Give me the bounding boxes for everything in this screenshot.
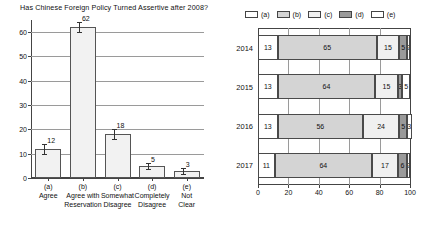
- stacked-row-2015: 201513641535: [258, 67, 410, 106]
- bar-value-label: 62: [82, 15, 90, 22]
- legend-item-d[interactable]: (d): [339, 11, 364, 18]
- legend-item-a[interactable]: (a): [245, 11, 270, 18]
- x-tick-mark: [83, 178, 84, 181]
- stack-segment-b[interactable]: 64: [278, 74, 375, 99]
- y-gridline: [31, 32, 204, 33]
- bar-value-label: 12: [47, 137, 55, 144]
- left-plot-area: 010203040506012(a)Agree62(b)Agree withRe…: [31, 20, 204, 178]
- error-bar-cap: [77, 22, 82, 23]
- legend: (a)(b)(c)(d)(e): [245, 11, 395, 18]
- error-bar-cap: [42, 154, 47, 155]
- bar-value-label: 5: [151, 156, 155, 163]
- legend-item-c[interactable]: (c): [308, 11, 332, 18]
- y-gridline: [31, 129, 204, 130]
- error-bar: [114, 129, 115, 139]
- x-gridline: [410, 28, 411, 185]
- bar-e[interactable]: [174, 171, 200, 178]
- y-tick-mark: [28, 32, 31, 33]
- x-tick-mark: [380, 185, 381, 188]
- legend-swatch-icon: [277, 11, 290, 18]
- right-plot-area: 0204060801002014136515522015136415352016…: [258, 28, 410, 185]
- legend-swatch-icon: [245, 11, 258, 18]
- y-tick-label: 50: [19, 53, 27, 60]
- legend-item-b[interactable]: (b): [277, 11, 302, 18]
- y-tick-label: 40: [19, 77, 27, 84]
- stack-segment-a[interactable]: 11: [258, 153, 275, 178]
- legend-label: (a): [261, 11, 270, 18]
- error-bar-cap: [112, 129, 117, 130]
- y-category-label: 2016: [236, 122, 253, 131]
- stack-segment-a[interactable]: 13: [258, 114, 278, 139]
- legend-item-e[interactable]: (e): [371, 11, 396, 18]
- error-bar-cap: [112, 139, 117, 140]
- y-tick-mark: [28, 178, 31, 179]
- x-tick-label: 100: [404, 189, 416, 196]
- stack-segment-c[interactable]: 15: [375, 74, 398, 99]
- stack-segment-d[interactable]: 5: [399, 114, 407, 139]
- stack-segment-a[interactable]: 13: [258, 74, 278, 99]
- stack-segment-d[interactable]: 5: [399, 35, 407, 60]
- error-bar-cap: [181, 168, 186, 169]
- bar-d[interactable]: [139, 166, 165, 178]
- stacked-row-2016: 201613562453: [258, 107, 410, 146]
- left-bar-chart-panel: Has Chinese Foreign Policy Turned Assert…: [0, 0, 215, 226]
- error-bar: [44, 144, 45, 154]
- y-gridline: [31, 56, 204, 57]
- y-tick-label: 10: [19, 150, 27, 157]
- x-tick-mark: [258, 185, 259, 188]
- bar-c[interactable]: [105, 134, 131, 178]
- stack-segment-d[interactable]: 6: [398, 153, 407, 178]
- legend-label: (d): [355, 11, 364, 18]
- right-stacked-chart-panel: (a)(b)(c)(d)(e) 020406080100201413651552…: [215, 0, 430, 226]
- stacked-row-2017: 201711641762: [258, 146, 410, 185]
- y-tick-mark: [28, 56, 31, 57]
- stack-segment-c[interactable]: 17: [372, 153, 398, 178]
- x-tick-mark: [187, 178, 188, 181]
- stack-segment-c[interactable]: 24: [363, 114, 399, 139]
- error-bar-cap: [42, 144, 47, 145]
- x-tick-mark: [288, 185, 289, 188]
- x-tick-label: 20: [284, 189, 292, 196]
- page-title: Has Chinese Foreign Policy Turned Assert…: [20, 3, 208, 12]
- stack-segment-b[interactable]: 56: [278, 114, 363, 139]
- stack-segment-c[interactable]: 15: [377, 35, 400, 60]
- y-tick-mark: [28, 81, 31, 82]
- x-tick-label: 80: [376, 189, 384, 196]
- legend-label: (b): [293, 11, 302, 18]
- bar-a[interactable]: [35, 149, 61, 178]
- stack-segment-b[interactable]: 65: [278, 35, 377, 60]
- y-tick-label: 0: [23, 175, 27, 182]
- stack-segment-e[interactable]: 5: [402, 74, 410, 99]
- x-tick-mark: [349, 185, 350, 188]
- stack-segment-e[interactable]: 3: [407, 114, 412, 139]
- bar-b[interactable]: [70, 27, 96, 178]
- stack-segment-e[interactable]: 2: [407, 153, 410, 178]
- stacked-bar: 13562453: [258, 114, 410, 139]
- stack-segment-e[interactable]: 2: [407, 35, 410, 60]
- x-category-line: (e): [166, 182, 207, 191]
- y-tick-mark: [28, 129, 31, 130]
- y-tick-label: 60: [19, 29, 27, 36]
- stack-segment-b[interactable]: 64: [275, 153, 372, 178]
- x-tick-label: 60: [345, 189, 353, 196]
- legend-swatch-icon: [339, 11, 352, 18]
- figure-root: Has Chinese Foreign Policy Turned Assert…: [0, 0, 430, 226]
- x-tick-mark: [48, 178, 49, 181]
- y-category-label: 2015: [236, 82, 253, 91]
- bar-value-label: 18: [117, 122, 125, 129]
- y-tick-mark: [28, 105, 31, 106]
- stack-segment-a[interactable]: 13: [258, 35, 278, 60]
- stacked-bar: 13641535: [258, 74, 410, 99]
- x-tick-mark: [118, 178, 119, 181]
- bar-value-label: 3: [186, 161, 190, 168]
- x-tick-label: 40: [315, 189, 323, 196]
- x-tick-mark: [319, 185, 320, 188]
- y-category-label: 2014: [236, 43, 253, 52]
- y-category-label: 2017: [236, 161, 253, 170]
- stacked-bar: 11641762: [258, 153, 410, 178]
- error-bar: [79, 22, 80, 32]
- y-gridline: [31, 105, 204, 106]
- x-category-label: (e)NotClear: [166, 182, 207, 209]
- y-tick-mark: [28, 154, 31, 155]
- y-tick-label: 20: [19, 126, 27, 133]
